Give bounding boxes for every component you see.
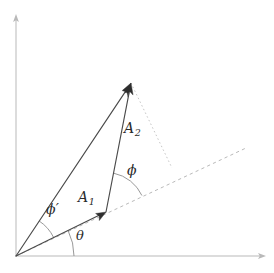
label-phi-prime-symbol: ϕ xyxy=(46,201,56,217)
theta-arc xyxy=(68,231,74,257)
label-theta: θ xyxy=(76,229,84,242)
label-a2: A2 xyxy=(124,121,141,137)
a1-vector-line xyxy=(16,215,100,256)
label-a2-base: A xyxy=(124,120,134,136)
vector-diagram-figure: A1 A2 ϕ ϕ′ θ xyxy=(0,0,274,273)
resultant-vector-line xyxy=(16,88,128,256)
label-phi-symbol: ϕ xyxy=(127,162,137,178)
label-a1: A1 xyxy=(78,190,95,206)
a2-vector-line xyxy=(106,89,130,212)
phi-prime-arc xyxy=(39,221,54,238)
label-phi: ϕ xyxy=(127,163,137,177)
label-a2-subscript: 2 xyxy=(135,127,141,138)
label-phi-prime-mark: ′ xyxy=(56,201,59,217)
label-theta-symbol: θ xyxy=(76,228,84,243)
label-a1-base: A xyxy=(78,189,88,205)
label-phi-prime: ϕ′ xyxy=(46,202,59,216)
label-a1-subscript: 1 xyxy=(89,196,95,207)
vectors-group xyxy=(16,83,133,256)
